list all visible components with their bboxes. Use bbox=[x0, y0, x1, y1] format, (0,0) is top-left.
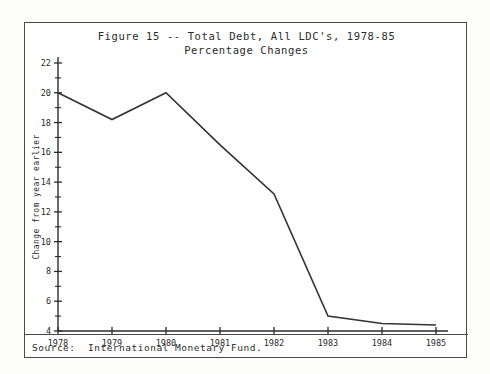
y-tick-label: 12 bbox=[41, 207, 51, 217]
plot-area: 4681012141618202219781979198019811982198… bbox=[25, 23, 468, 359]
x-tick-label: 1983 bbox=[318, 338, 338, 348]
y-tick-label: 6 bbox=[46, 296, 51, 306]
y-tick-label: 20 bbox=[41, 88, 51, 98]
y-tick-label: 10 bbox=[41, 237, 51, 247]
y-tick-label: 16 bbox=[41, 147, 51, 157]
y-tick-label: 18 bbox=[41, 118, 51, 128]
data-series-line bbox=[58, 93, 436, 325]
x-tick-label: 1982 bbox=[264, 338, 284, 348]
y-tick-label: 22 bbox=[41, 58, 51, 68]
x-tick-label: 1984 bbox=[372, 338, 392, 348]
figure-frame: Figure 15 -- Total Debt, All LDC's, 1978… bbox=[24, 22, 467, 358]
source-note: Source: International Monetary Fund. bbox=[32, 342, 262, 353]
x-tick-label: 1985 bbox=[426, 338, 446, 348]
source-divider bbox=[25, 334, 468, 336]
y-tick-label: 14 bbox=[41, 177, 51, 187]
line-chart-svg: 4681012141618202219781979198019811982198… bbox=[25, 23, 468, 359]
figure-root: Figure 15 -- Total Debt, All LDC's, 1978… bbox=[0, 0, 490, 374]
y-tick-label: 8 bbox=[46, 266, 51, 276]
y-axis-title: Change from year earlier bbox=[32, 134, 41, 259]
